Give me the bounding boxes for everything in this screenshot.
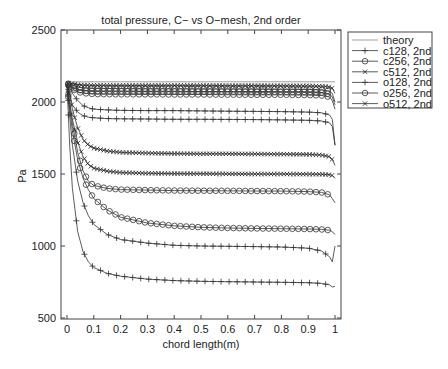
- legend-label: o512, 2nd: [383, 98, 432, 110]
- chart-title: total pressure, C− vs O−mesh, 2nd order: [101, 14, 301, 26]
- x-tick-label: 0.9: [301, 323, 316, 335]
- y-tick-label: 500: [38, 312, 56, 324]
- x-tick-label: 0.2: [113, 323, 128, 335]
- legend: theoryc128, 2ndc256, 2ndc512, 2ndo128, 2…: [348, 32, 432, 110]
- x-tick-label: 0.4: [167, 323, 182, 335]
- y-tick-label: 1500: [32, 168, 56, 180]
- y-tick-label: 1000: [32, 240, 56, 252]
- y-axis-label: Pa: [16, 168, 28, 182]
- chart: total pressure, C− vs O−mesh, 2nd order …: [0, 0, 448, 369]
- x-tick-label: 0.5: [193, 323, 208, 335]
- x-tick-label: 0.3: [140, 323, 155, 335]
- data-series: [65, 81, 335, 287]
- y-tick-label: 2500: [32, 24, 56, 36]
- x-tick-label: 0: [64, 323, 70, 335]
- series-curve: [66, 84, 335, 203]
- x-tick-label: 0.6: [220, 323, 235, 335]
- y-tick-label: 2000: [32, 96, 56, 108]
- x-tick-label: 0.7: [247, 323, 262, 335]
- x-tick-label: 0.1: [86, 323, 101, 335]
- series-curve: [66, 85, 335, 235]
- x-axis-label: chord length(m): [162, 338, 239, 350]
- x-tick-label: 0.8: [274, 323, 289, 335]
- x-tick-label: 1: [332, 323, 338, 335]
- series-curve: [66, 84, 335, 178]
- x-axis: 00.10.20.30.40.50.60.70.80.91: [64, 30, 338, 335]
